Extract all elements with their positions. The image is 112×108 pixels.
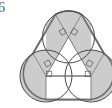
problem-number-label: 6 xyxy=(0,0,14,17)
geometry-figure xyxy=(0,0,112,108)
figure-page: 6 xyxy=(0,0,112,108)
